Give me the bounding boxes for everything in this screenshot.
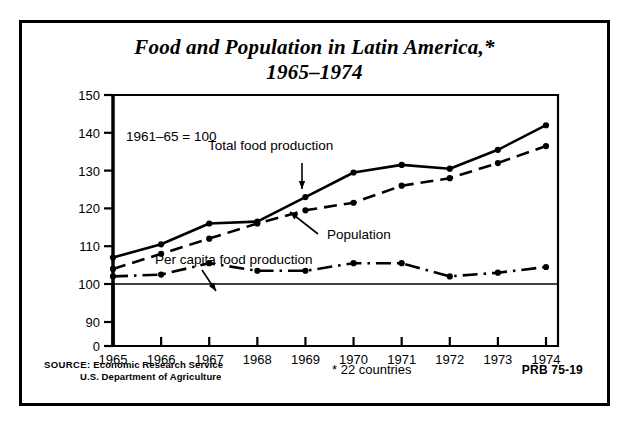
data-point [302,194,308,200]
data-point [350,169,356,175]
series-annotation-label: Per capita food production [155,252,313,267]
data-point [495,147,501,153]
y-tick-label: 150 [78,88,100,103]
data-point [543,143,549,149]
y-tick-label: 100 [78,277,100,292]
y-tick-label: 120 [78,201,100,216]
annotation-arrowhead [299,181,305,189]
data-point [399,183,405,189]
data-point [110,266,116,272]
publication-code: PRB 75-19 [522,363,583,377]
source-line-1: Economic Research Service [93,359,223,370]
data-point [495,270,501,276]
data-point [206,220,212,226]
source-line-2: U.S. Department of Agriculture [44,371,223,383]
data-point [350,260,356,266]
data-point [110,254,116,260]
data-point [254,268,260,274]
data-point [158,271,164,277]
footer: SOURCE: Economic Research Service U.S. D… [22,359,607,393]
data-point [399,162,405,168]
y-tick-label: 130 [78,164,100,179]
data-point [350,200,356,206]
line-chart: 1501401301201101009001965196619671968196… [22,23,613,409]
data-point [447,273,453,279]
poster-frame: Food and Population in Latin America,* 1… [19,20,610,406]
data-point [302,268,308,274]
series-line [113,146,546,269]
footnote-countries: * 22 countries [332,362,412,377]
y-tick-label: 90 [86,315,100,330]
data-point [206,236,212,242]
data-point [254,220,260,226]
data-point [399,260,405,266]
y-tick-label: 140 [78,126,100,141]
data-point [543,122,549,128]
series-annotation-label: Total food production [208,138,333,153]
data-point [447,166,453,172]
source-credit: SOURCE: Economic Research Service U.S. D… [44,359,223,382]
y-tick-label: 110 [79,239,100,254]
data-point [447,175,453,181]
data-point [158,241,164,247]
data-point [302,207,308,213]
base-index-note: 1961–65 = 100 [126,129,216,144]
data-point [110,273,116,279]
series-annotation-label: Population [327,227,391,242]
data-point [543,264,549,270]
data-point [495,160,501,166]
source-label: SOURCE: [44,359,91,370]
